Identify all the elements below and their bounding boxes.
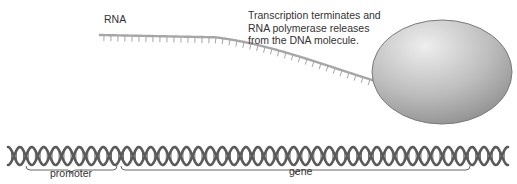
- rna-polymerase: [372, 20, 512, 124]
- promoter-label: promoter: [50, 167, 92, 180]
- caption-line-3: from the DNA molecule.: [248, 34, 381, 47]
- caption-line-2: RNA polymerase releases: [248, 22, 381, 35]
- caption-line-1: Transcription terminates and: [248, 9, 381, 22]
- transcription-termination-diagram: RNA Transcription terminates and RNA pol…: [0, 0, 517, 184]
- rna-label: RNA: [104, 13, 126, 26]
- gene-label: gene: [289, 165, 312, 178]
- termination-caption: Transcription terminates and RNA polymer…: [248, 9, 381, 47]
- region-braces: [26, 166, 470, 174]
- dna-double-helix: [8, 147, 508, 165]
